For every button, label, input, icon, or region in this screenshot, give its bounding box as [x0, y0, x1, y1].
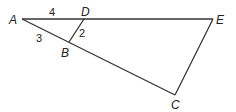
point-label-A: A — [8, 13, 17, 27]
point-label-B: B — [61, 46, 69, 60]
point-label-D: D — [81, 5, 90, 19]
segment-AC — [22, 19, 175, 95]
segment-EC — [175, 19, 213, 95]
measure-DB: 2 — [79, 27, 85, 39]
point-label-E: E — [216, 13, 225, 27]
measure-AD: 4 — [49, 6, 55, 18]
point-label-C: C — [171, 98, 180, 112]
measure-AB: 3 — [36, 32, 42, 44]
triangle-diagram: A D E B C 4 3 2 — [0, 0, 236, 112]
